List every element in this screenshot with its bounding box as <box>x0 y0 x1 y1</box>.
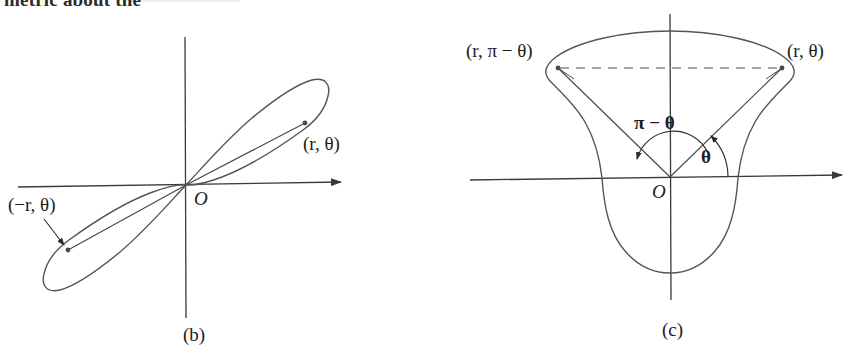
figure-svg <box>0 0 855 362</box>
panel-b-label-r-theta: (r, θ) <box>303 133 340 155</box>
panel-b-label-neg-r-theta: (−r, θ) <box>8 194 56 216</box>
panel-c-y-axis <box>670 14 671 300</box>
panel-c-label-angle-pi-minus-theta: π − θ <box>634 112 675 134</box>
panel-b-y-axis <box>185 37 186 318</box>
panel-b-caption: (b) <box>183 324 205 346</box>
panel-c-point-left-tick <box>558 68 574 79</box>
panel-c-x-axis <box>470 175 842 180</box>
panel-c-label-origin: O <box>652 181 666 203</box>
figure-root: metric about the <box>0 0 855 362</box>
panel-c-point-right-tick <box>766 68 782 79</box>
panel-b-point-r-theta-marker <box>303 121 308 126</box>
panel-c-angle-arc-theta <box>711 136 728 176</box>
panel-c-label-r-theta: (r, θ) <box>787 40 824 62</box>
panel-c-label-angle-theta: θ <box>701 146 711 168</box>
panel-b-lemniscate-lower-lobe <box>43 185 186 291</box>
panel-b-leader-arrow <box>44 219 64 245</box>
panel-b-point-neg-r-theta-marker <box>66 248 71 253</box>
panel-c-caption: (c) <box>662 319 683 341</box>
panel-b-ray-to-r-theta <box>186 123 305 185</box>
panel-c-label-r-pi-minus-theta: (r, π − θ) <box>466 40 533 62</box>
panel-b-label-origin: O <box>194 188 208 210</box>
clipped-running-text: metric about the <box>4 0 141 11</box>
panel-b-ray-to-neg-r-theta <box>68 185 186 250</box>
panel-b <box>18 37 341 318</box>
